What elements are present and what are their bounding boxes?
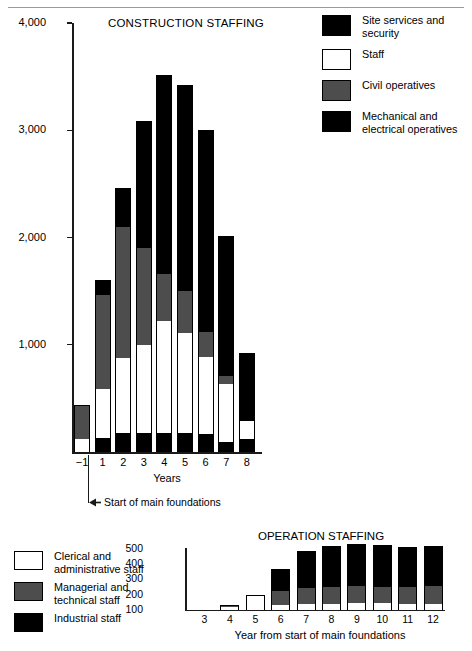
construction-bar-segment-site [177, 85, 193, 291]
construction-bar [95, 280, 111, 452]
operation-bar-segment-ind [271, 569, 290, 591]
operation-x-tick-label: 5 [243, 613, 267, 625]
construction-legend-label: Civil operatives [362, 79, 435, 92]
construction-bar [198, 130, 214, 452]
operation-legend-item: Industrial staff [14, 612, 164, 632]
construction-staffing-chart: CONSTRUCTION STAFFING 4,0003,0002,0001,0… [0, 0, 472, 520]
operation-bar [424, 546, 443, 610]
operation-x-tick-label: 7 [294, 613, 318, 625]
operation-bar-segment-cler [424, 604, 443, 610]
construction-bar-segment-civil [136, 248, 152, 345]
operation-bar-segment-ind [373, 545, 392, 587]
construction-bar-segment-staff [95, 389, 111, 438]
operation-bar-segment-cler [220, 607, 239, 610]
construction-legend-item: Site services and security [322, 14, 472, 39]
construction-bar-segment-civil [218, 376, 234, 385]
operation-bar [373, 545, 392, 610]
construction-bar-segment-staff [156, 321, 172, 433]
operation-bar [297, 551, 316, 610]
operation-bars [186, 548, 446, 610]
construction-bar-segment-mech [95, 438, 111, 452]
construction-legend-label: Staff [362, 48, 384, 61]
construction-bar [218, 236, 234, 452]
operation-bar-segment-cler [398, 604, 417, 610]
operation-x-tick-label: 12 [421, 613, 445, 625]
operation-bar-segment-ind [322, 546, 341, 587]
construction-bar-segment-site [136, 121, 152, 249]
construction-bar-segment-mech [218, 442, 234, 452]
construction-bar-segment-civil [74, 405, 90, 439]
legend-swatch-icon [322, 15, 351, 36]
construction-bar-segment-staff [198, 357, 214, 434]
operation-bar-segment-mgr [424, 586, 443, 604]
construction-bar-segment-staff [136, 345, 152, 433]
construction-bar [156, 75, 172, 453]
construction-legend: Site services and securityStaffCivil ope… [322, 14, 472, 144]
construction-bar-segment-civil [115, 227, 131, 358]
operation-bar [398, 547, 417, 610]
construction-bar-segment-site [218, 236, 234, 375]
construction-bars [72, 23, 262, 452]
operation-bar-segment-mgr [347, 586, 366, 603]
legend-swatch-icon [322, 49, 351, 70]
construction-y-tick-label: 4,000 [6, 16, 46, 28]
operation-bar-segment-ind [398, 547, 417, 587]
operation-bar-segment-ind [424, 546, 443, 586]
construction-bar-segment-site [95, 280, 111, 295]
operation-bar-segment-mgr [271, 591, 290, 605]
construction-legend-item: Mechanical and electrical operatives [322, 110, 472, 135]
operation-x-tick-label: 6 [269, 613, 293, 625]
construction-bar-segment-site [198, 130, 214, 332]
legend-swatch-icon [14, 582, 43, 601]
operation-bar-segment-mgr [297, 588, 316, 604]
legend-swatch-icon [322, 111, 351, 132]
operation-bar-segment-mgr [322, 587, 341, 604]
construction-legend-item: Civil operatives [322, 79, 472, 101]
construction-y-tick-label: 3,000 [6, 123, 46, 135]
operation-y-tick-label: 200 [111, 588, 143, 600]
legend-swatch-icon [322, 80, 351, 101]
construction-bar-segment-site [115, 188, 131, 227]
construction-bar-segment-staff [239, 421, 255, 439]
construction-y-tick-label: 2,000 [6, 231, 46, 243]
construction-bar-segment-staff [115, 358, 131, 433]
operation-bar [246, 595, 265, 610]
construction-bar-segment-civil [177, 291, 193, 333]
operation-bar-segment-cler [246, 595, 265, 610]
construction-bar-segment-civil [198, 332, 214, 357]
construction-bar-segment-civil [156, 274, 172, 321]
operation-bar-segment-cler [297, 604, 316, 610]
operation-y-tick-label: 300 [111, 572, 143, 584]
operation-x-axis-title: Year from start of main foundations [195, 629, 445, 641]
operation-staffing-chart: OPERATION STAFFING Clerical and administ… [0, 528, 472, 651]
foundations-marker-line [88, 455, 89, 503]
operation-x-tick-label: 4 [218, 613, 242, 625]
construction-bar-segment-site [156, 75, 172, 274]
construction-bar [74, 405, 90, 452]
operation-bar-segment-cler [347, 603, 366, 610]
operation-x-tick-label: 10 [370, 613, 394, 625]
construction-bar [177, 85, 193, 452]
operation-bar [271, 569, 290, 610]
operation-y-axis: 500400300200100 [145, 528, 185, 628]
construction-x-axis-title: Years [137, 472, 197, 484]
construction-bar [136, 121, 152, 452]
construction-y-tick-label: 1,000 [6, 338, 46, 350]
construction-legend-label: Site services and security [362, 14, 472, 39]
operation-x-tick-label: 3 [193, 613, 217, 625]
construction-x-tick-label: 8 [234, 456, 260, 468]
operation-y-tick-label: 500 [111, 542, 143, 554]
construction-bar-segment-mech [156, 433, 172, 452]
operation-chart-title: OPERATION STAFFING [258, 530, 384, 542]
operation-x-tick-label: 9 [345, 613, 369, 625]
construction-bar-segment-mech [115, 433, 131, 452]
operation-bar-segment-mgr [373, 587, 392, 603]
operation-bar-segment-cler [322, 604, 341, 610]
legend-swatch-icon [14, 551, 43, 570]
construction-y-axis: 4,0003,0002,0001,000 [0, 0, 72, 460]
operation-bar [347, 544, 366, 610]
construction-bar [239, 353, 255, 452]
construction-bar-segment-staff [74, 439, 90, 452]
construction-bar-segment-mech [177, 433, 193, 452]
construction-bar [115, 188, 131, 452]
